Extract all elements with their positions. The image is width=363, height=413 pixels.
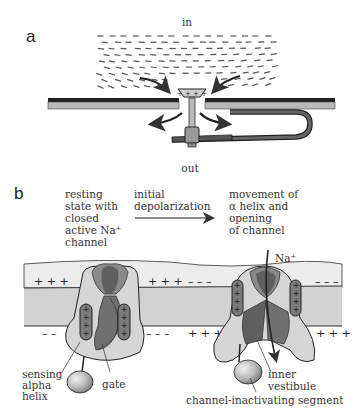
- charges-top-mid-neg: – – –: [188, 275, 212, 288]
- caption-line: resting: [65, 188, 103, 200]
- label-line: inner: [268, 368, 297, 380]
- plug-stem: [189, 98, 195, 128]
- label-out: out: [181, 162, 199, 174]
- panel-b: b resting state with closed active Na⁺ c…: [14, 184, 351, 406]
- sodium-label: Na⁺: [275, 252, 296, 264]
- caption-line: channel: [65, 236, 108, 248]
- caption-line: active Na⁺: [65, 224, 121, 236]
- caption-line: depolarization: [134, 200, 211, 212]
- charges-bottom-mid-neg: – – –: [146, 327, 170, 340]
- caption-line: movement of: [229, 188, 299, 200]
- caption-line: state with: [65, 200, 118, 212]
- nut: [185, 127, 199, 143]
- membrane-right: [205, 98, 335, 109]
- caption-line: α helix and: [229, 200, 288, 212]
- caption-line: of channel: [229, 224, 285, 236]
- label-inner-vestibule: inner vestibule: [267, 368, 316, 392]
- label-in: in: [182, 16, 192, 28]
- svg-text:+: +: [234, 305, 241, 314]
- charges-top-right-neg: – – –: [315, 275, 339, 288]
- charges-bottom-left-neg: – –: [42, 327, 57, 340]
- inactivating-ball-right: [234, 360, 262, 384]
- caption-depolarization: initial depolarization: [134, 188, 211, 212]
- arrow-out-left: [152, 113, 182, 124]
- charges-top-left: + + +: [34, 275, 69, 288]
- plug-charges: + + + +: [177, 90, 207, 98]
- caption-open: movement of α helix and opening of chann…: [229, 188, 299, 236]
- svg-text:+: +: [83, 329, 90, 338]
- panel-a: a in + + + +: [26, 16, 335, 174]
- negative-charge-field: [96, 36, 278, 88]
- charges-bottom-right-pos: + + +: [316, 327, 351, 340]
- label-channel-inactivating-segment: channel-inactivating segment: [186, 394, 344, 406]
- label-line: helix: [22, 390, 48, 402]
- caption-line: closed: [65, 212, 99, 224]
- inactivating-ball-left: [67, 371, 93, 393]
- svg-text:+: +: [121, 329, 128, 338]
- panel-b-letter: b: [14, 184, 23, 203]
- svg-text:+: +: [293, 305, 300, 314]
- panel-a-letter: a: [26, 27, 36, 46]
- figure-canvas: a in + + + +: [0, 0, 363, 413]
- arrow-out-right: [200, 113, 228, 124]
- label-sensing-alpha-helix: sensing alpha helix: [22, 368, 63, 402]
- caption-line: opening: [229, 212, 272, 224]
- membrane-left: [48, 98, 179, 109]
- charges-top-mid: + + +: [148, 275, 183, 288]
- label-gate: gate: [102, 378, 125, 390]
- caption-line: initial: [134, 188, 165, 200]
- caption-resting: resting state with closed active Na⁺ cha…: [65, 188, 121, 248]
- label-line: vestibule: [267, 380, 316, 392]
